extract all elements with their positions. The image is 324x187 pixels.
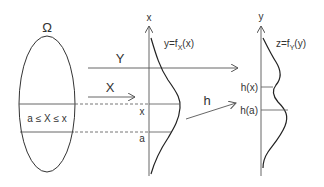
h-arrow-icon (186, 103, 236, 119)
tick-a-label: a (139, 133, 145, 144)
right-density-plot: y h(x) h(a) z=fY(y) (240, 11, 306, 176)
x-axis-label: x (147, 12, 152, 23)
y-axis-label: y (259, 11, 264, 22)
sample-space: Ω a ≤ X ≤ x (19, 20, 75, 172)
Y-mapping-arrow: Y (88, 51, 238, 68)
fX-density-curve (151, 38, 180, 174)
event-label: a ≤ X ≤ x (27, 113, 66, 124)
omega-label: Ω (42, 20, 52, 35)
h-mapping-arrow: h (186, 93, 236, 119)
fY-density-curve (263, 38, 287, 168)
Y-label: Y (116, 51, 125, 66)
tick-ha-label: h(a) (240, 105, 258, 116)
fX-curve-label: y=fX(x) (164, 38, 194, 51)
h-label: h (203, 93, 210, 108)
left-density-plot: x x a y=fX(x) (139, 12, 194, 176)
tick-x-label: x (140, 106, 145, 117)
X-label: X (106, 80, 115, 95)
transformation-diagram: Ω a ≤ X ≤ x Y X x x a y=fX(x) h y (0, 0, 324, 187)
tick-hx-label: h(x) (241, 82, 258, 93)
X-mapping-arrow: X (88, 80, 135, 97)
fY-curve-label: z=fY(y) (276, 38, 306, 51)
